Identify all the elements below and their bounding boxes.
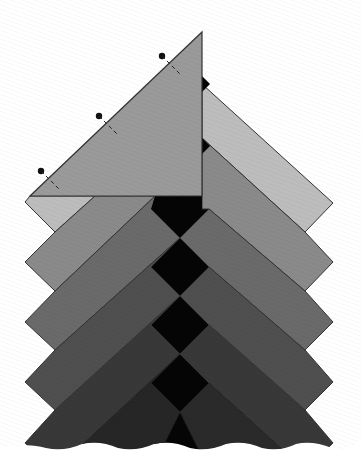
quilt-diagram <box>0 0 361 471</box>
quilt-diagram-svg <box>0 0 361 471</box>
